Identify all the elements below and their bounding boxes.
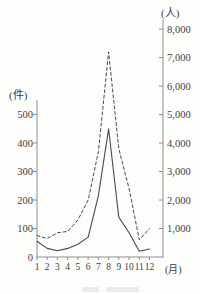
right-axis-tick-label: 2,000: [167, 195, 191, 206]
right-axis-tick-label: 1,000: [167, 223, 191, 234]
solid-line-cases: [37, 129, 150, 252]
cropped-caption-remnant: [82, 287, 99, 292]
right-axis-tick-label: 5,000: [167, 109, 191, 120]
left-axis-tick-label: 400: [9, 138, 33, 149]
left-axis-tick-label: 0: [9, 252, 33, 263]
right-axis-title: (人): [161, 4, 179, 20]
right-axis-tick-label: 8,000: [167, 24, 191, 35]
right-axis-tick-label: 3,000: [167, 166, 191, 177]
figure-root: (件) (人) (月) 0100200300400500 1,0002,0003…: [0, 0, 200, 294]
right-axis-tick-label: 6,000: [167, 81, 191, 92]
right-axis-tick-label: 4,000: [167, 138, 191, 149]
right-axis-tick-label: 7,000: [167, 52, 191, 63]
left-axis-tick-label: 100: [9, 223, 33, 234]
left-axis-title: (件): [9, 86, 27, 102]
left-axis-tick-label: 200: [9, 195, 33, 206]
month-label: 12: [143, 262, 157, 272]
left-axis-tick-label: 300: [9, 166, 33, 177]
dashed-line-persons: [37, 52, 150, 240]
cropped-caption-remnant: [106, 287, 139, 292]
left-axis-tick-label: 500: [9, 109, 33, 120]
month-axis-title: (月): [165, 261, 182, 276]
